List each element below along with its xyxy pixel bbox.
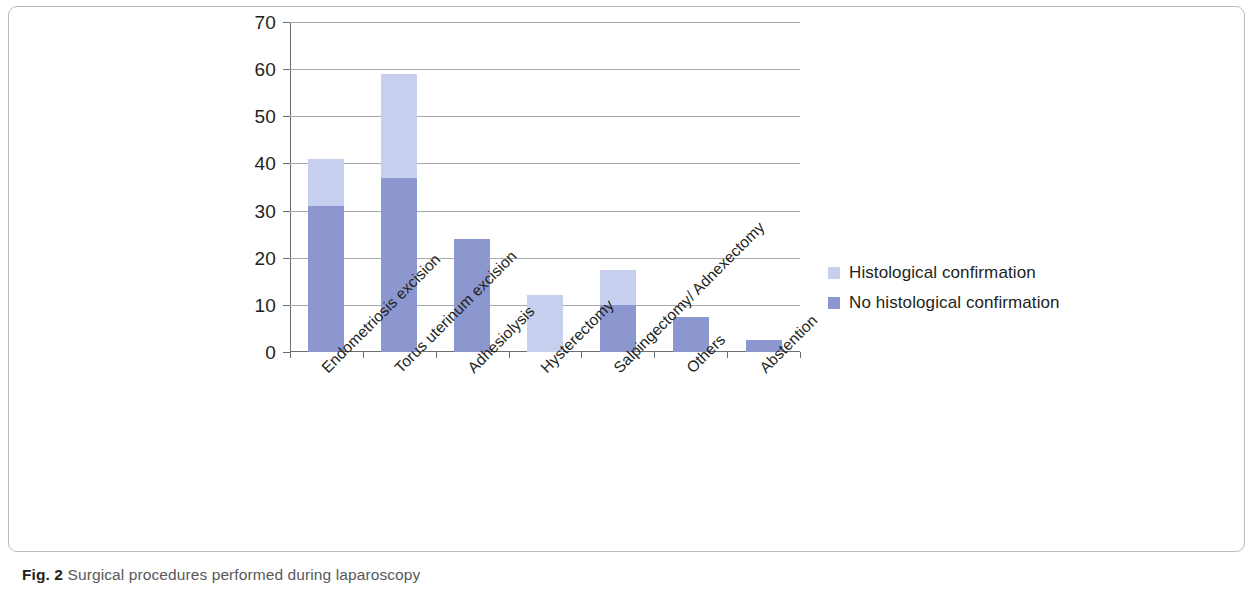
- y-axis-tick-label: 10: [236, 295, 276, 314]
- y-axis-tick-label: 30: [236, 201, 276, 220]
- y-axis-tick-mark: [283, 163, 290, 164]
- y-axis-tick-label: 50: [236, 107, 276, 126]
- legend-item-label: Histological confirmation: [849, 263, 1036, 283]
- gridline: [290, 211, 800, 212]
- bar-segment-histological[interactable]: [308, 159, 344, 206]
- chart-plot-area: 010203040506070: [290, 22, 800, 352]
- y-axis-tick-mark: [283, 305, 290, 306]
- gridline: [290, 22, 800, 23]
- legend-item[interactable]: No histological confirmation: [828, 288, 1060, 318]
- x-axis-labels: Endometriosis excisionTorus uterinum exc…: [290, 356, 850, 556]
- gridline: [290, 163, 800, 164]
- figure-container: 010203040506070 Endometriosis excisionTo…: [0, 0, 1255, 600]
- bar-column[interactable]: [308, 159, 344, 352]
- figure-caption-label: Fig. 2: [22, 566, 63, 583]
- figure-caption: Fig. 2 Surgical procedures performed dur…: [22, 566, 420, 584]
- y-axis-tick-mark: [283, 352, 290, 353]
- y-axis-tick-mark: [283, 211, 290, 212]
- gridline: [290, 69, 800, 70]
- y-axis-tick-mark: [283, 116, 290, 117]
- y-axis-tick-label: 60: [236, 60, 276, 79]
- legend-item-label: No histological confirmation: [849, 293, 1060, 313]
- y-axis-tick-mark: [283, 258, 290, 259]
- chart-legend: Histological confirmationNo histological…: [828, 258, 1060, 318]
- bar-segment-no-histological[interactable]: [308, 206, 344, 352]
- figure-caption-text: Surgical procedures performed during lap…: [68, 566, 421, 583]
- bar-segment-no-histological[interactable]: [381, 178, 417, 352]
- legend-color-swatch: [828, 267, 840, 279]
- y-axis-tick-label: 70: [236, 13, 276, 32]
- y-axis-tick-mark: [283, 22, 290, 23]
- legend-item[interactable]: Histological confirmation: [828, 258, 1060, 288]
- bar-segment-histological[interactable]: [381, 74, 417, 178]
- legend-color-swatch: [828, 297, 840, 309]
- y-axis-tick-label: 20: [236, 248, 276, 267]
- y-axis-tick-mark: [283, 69, 290, 70]
- gridline: [290, 116, 800, 117]
- y-axis-tick-label: 0: [236, 343, 276, 362]
- y-axis-tick-label: 40: [236, 154, 276, 173]
- y-axis-line: [290, 22, 291, 352]
